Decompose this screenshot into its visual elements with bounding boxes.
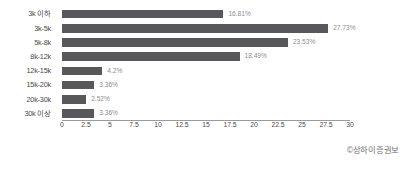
bar-track: 27.73%: [62, 21, 388, 35]
bar-track: 3.36%: [62, 106, 388, 120]
x-tick-label: 30: [346, 122, 354, 129]
watermark: ©상하이증권보: [347, 146, 399, 154]
category-label: 15k-20k: [0, 81, 56, 88]
bar-row: 30k 이상3.36%: [0, 106, 413, 120]
category-label: 30k 이상: [0, 110, 56, 117]
bar-row: 8k-12k18.49%: [0, 50, 413, 64]
bar-rows: 3k 이하16.81%3k-5k27.73%5k-8k23.53%8k-12k1…: [0, 7, 413, 121]
x-axis-ticks: 02.557.51012.51517.52022.52527.530: [0, 122, 413, 134]
bar-value-label: 3.36%: [99, 82, 118, 89]
x-tick-label: 27.5: [319, 122, 332, 129]
bar-value-label: 4.2%: [107, 68, 122, 75]
bar: [62, 10, 223, 19]
x-tick-label: 20: [250, 122, 258, 129]
bar-row: 3k-5k27.73%: [0, 21, 413, 35]
bar-track: 23.53%: [62, 35, 388, 49]
bar-row: 12k-15k4.2%: [0, 64, 413, 78]
category-label: 20k-30k: [0, 96, 56, 103]
category-label: 8k-12k: [0, 53, 56, 60]
x-tick-label: 2.5: [81, 122, 90, 129]
bar-value-label: 2.52%: [91, 96, 110, 103]
bar-track: 4.2%: [62, 64, 388, 78]
category-label: 3k-5k: [0, 25, 56, 32]
bar: [62, 38, 288, 47]
bar-track: 16.81%: [62, 7, 388, 21]
bar-chart: 3k 이하16.81%3k-5k27.73%5k-8k23.53%8k-12k1…: [0, 0, 413, 173]
bar-track: 3.36%: [62, 78, 388, 92]
x-tick-label: 12.5: [175, 122, 188, 129]
x-tick-label: 25: [298, 122, 306, 129]
bar: [62, 24, 328, 33]
bar-row: 5k-8k23.53%: [0, 35, 413, 49]
bar-row: 15k-20k3.36%: [0, 78, 413, 92]
x-tick-label: 22.5: [271, 122, 284, 129]
bar-value-label: 16.81%: [228, 11, 250, 18]
bar: [62, 109, 94, 118]
bar-track: 18.49%: [62, 50, 388, 64]
bar-row: 3k 이하16.81%: [0, 7, 413, 21]
x-tick-label: 5: [108, 122, 112, 129]
category-label: 5k-8k: [0, 39, 56, 46]
x-tick-label: 10: [154, 122, 162, 129]
category-label: 3k 이하: [0, 10, 56, 17]
bar: [62, 67, 102, 76]
bar: [62, 52, 240, 61]
category-label: 12k-15k: [0, 67, 56, 74]
x-tick-label: 7.5: [129, 122, 138, 129]
x-tick-label: 17.5: [223, 122, 236, 129]
bar-row: 20k-30k2.52%: [0, 92, 413, 106]
bar-value-label: 23.53%: [293, 39, 315, 46]
bar-value-label: 27.73%: [333, 25, 355, 32]
bar-value-label: 3.36%: [99, 110, 118, 117]
bar: [62, 95, 86, 104]
bar-value-label: 18.49%: [245, 53, 267, 60]
x-tick-label: 15: [202, 122, 210, 129]
bar: [62, 81, 94, 90]
x-tick-label: 0: [60, 122, 64, 129]
bar-track: 2.52%: [62, 92, 388, 106]
